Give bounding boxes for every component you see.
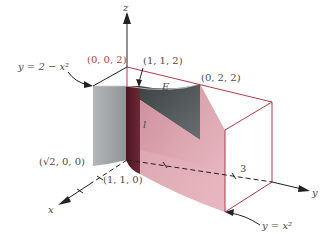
label-point-110: (1, 1, 0) [103,174,143,185]
label-y-tick-3: 3 [240,163,246,174]
label-origin-top: (0, 0, 2) [87,54,127,65]
dark-strip [126,86,140,174]
upper-curve-arrowhead [84,81,93,88]
label-point-sqrt200: (√2, 0, 0) [39,156,85,167]
y-axis-label: y [311,187,318,198]
lower-curve-arrowhead [225,209,234,216]
z-axis-label: z [122,2,129,13]
solid-region-diagram: z x y (0, 0, 2) (1, 1, 2) (0, 2, 2) (√2,… [0,0,330,240]
point-112-arrowhead [136,79,142,87]
label-point-022: (0, 2, 2) [201,72,241,83]
label-point-112: (1, 1, 2) [143,55,183,66]
label-curve-lower: y = x² [261,220,292,231]
lower-curve-pointer [230,213,260,225]
z-axis-arrowhead [123,12,131,24]
y-axis [272,182,302,189]
edge-to-gray [93,67,127,86]
x-axis-label: x [48,204,54,215]
label-curve-upper: y = 2 − x² [17,61,69,72]
gray-surface [93,86,127,166]
label-line-l: l [143,119,146,130]
label-region-E: E [161,81,170,92]
y-axis-arrowhead [298,185,310,192]
